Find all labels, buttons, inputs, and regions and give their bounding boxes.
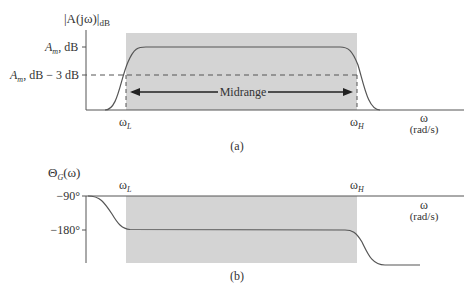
midrange-label: Midrange (220, 85, 267, 99)
tick-90-label: −90° (56, 189, 80, 203)
wh-label: ωH (350, 115, 365, 131)
tick-180-label: −180° (50, 223, 80, 237)
phase-wh-label: ωH (350, 178, 365, 194)
phase-ylabel: ΘG(ω) (48, 165, 80, 182)
am-label: Am, dB (44, 40, 78, 56)
frequency-response-diagram: Midrange |A(jω)|dB Am, dB Am, dB − 3 dB … (0, 0, 474, 289)
phase-plot: ΘG(ω) −90° −180° ωL ωH ω (rad/s) (b) (48, 165, 464, 283)
caption-b: (b) (230, 269, 244, 283)
phase-omega-unit: (rad/s) (410, 210, 439, 223)
wl-label: ωL (119, 115, 132, 131)
am-3db-label: Am, dB − 3 dB (9, 68, 79, 84)
magnitude-ylabel: |A(jω)|dB (64, 11, 110, 28)
magnitude-plot: Midrange |A(jω)|dB Am, dB Am, dB − 3 dB … (9, 11, 464, 153)
caption-a: (a) (230, 139, 243, 153)
phase-wl-label: ωL (119, 178, 132, 194)
omega-unit: (rad/s) (410, 123, 439, 136)
